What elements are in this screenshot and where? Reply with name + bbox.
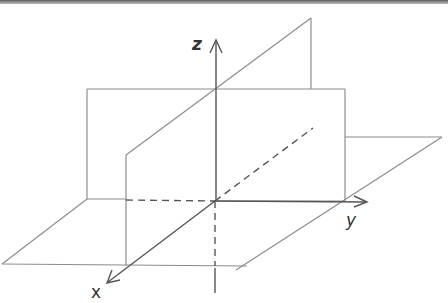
hidden-xy-back-edge <box>126 200 215 201</box>
y-axis <box>215 201 366 202</box>
x-axis <box>108 201 215 282</box>
xz-plane-top-edge <box>126 18 311 155</box>
z-axis-label: z <box>191 34 202 54</box>
xy-plane-back-left-edge <box>2 199 87 264</box>
hidden-x-axis-negative <box>215 128 313 201</box>
xy-plane-front-edge <box>2 264 247 266</box>
coordinate-planes-diagram: z y x <box>0 0 448 303</box>
y-axis-label: y <box>345 210 357 230</box>
xy-plane-right-edge <box>236 137 442 270</box>
x-axis-label: x <box>91 282 101 302</box>
